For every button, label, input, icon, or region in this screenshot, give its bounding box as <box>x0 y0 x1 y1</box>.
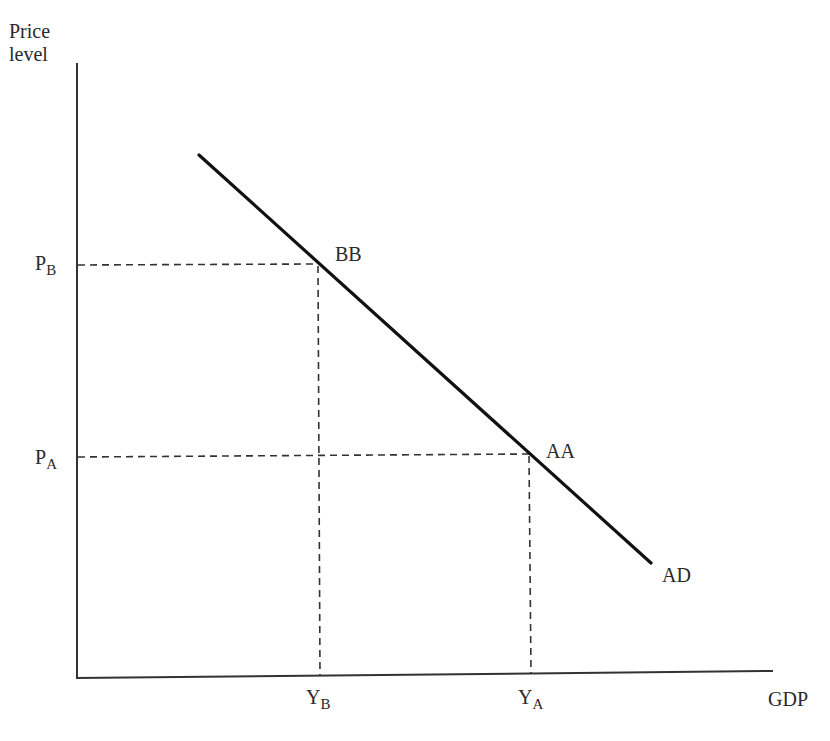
pa-sub: A <box>46 456 57 472</box>
y-axis-label: Price level <box>9 20 50 66</box>
pa-guide-horizontal <box>78 454 529 457</box>
yb-sub: B <box>320 696 330 712</box>
ya-tick-label: YA <box>518 686 543 715</box>
yb-tick-label: YB <box>306 686 330 715</box>
ya-main: Y <box>518 686 532 708</box>
point-aa-label: AA <box>546 440 575 462</box>
ad-diagram <box>0 0 830 741</box>
ad-curve <box>199 155 651 563</box>
point-bb-label: BB <box>335 243 362 265</box>
yb-guide-vertical <box>318 266 320 676</box>
y-axis-label-line2: level <box>9 43 50 66</box>
yb-main: Y <box>306 686 320 708</box>
pb-guide-horizontal <box>78 264 318 265</box>
ya-sub: A <box>532 696 543 712</box>
ya-guide-vertical <box>529 456 531 673</box>
y-axis-label-line1: Price <box>9 20 50 43</box>
x-axis <box>76 671 773 678</box>
pb-main: P <box>35 252 46 274</box>
pb-sub: B <box>46 262 56 278</box>
pa-main: P <box>35 446 46 468</box>
pa-tick-label: PA <box>35 446 57 475</box>
pb-tick-label: PB <box>35 252 56 281</box>
x-axis-label: GDP <box>768 688 808 710</box>
ad-curve-label: AD <box>662 564 691 586</box>
